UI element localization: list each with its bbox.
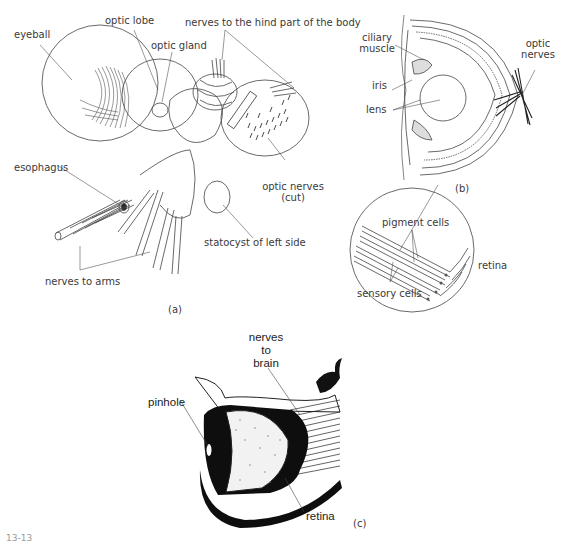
caption-c: (c)	[353, 518, 366, 529]
label-statocyst: statocyst of left side	[204, 237, 306, 248]
label-nerves-to-arms: nerves to arms	[45, 276, 120, 287]
label-ciliary-line2: muscle	[356, 43, 398, 54]
label-nerves-to-brain: nerves to brain	[246, 331, 286, 370]
label-lens: lens	[366, 104, 386, 115]
caption-b: (b)	[455, 183, 469, 194]
label-optic-nerves-cut-line1: optic nerves	[262, 181, 324, 192]
label-iris: iris	[372, 80, 387, 91]
label-pinhole: pinhole	[148, 396, 185, 409]
label-optic-gland: optic gland	[151, 40, 207, 51]
label-retina-c: retina	[306, 510, 335, 523]
label-nerves-line3: brain	[246, 357, 286, 370]
label-optic-nerves-b-line1: optic	[518, 38, 558, 49]
label-optic-lobe: optic lobe	[105, 15, 154, 26]
label-optic-nerves-cut-line2: (cut)	[262, 192, 324, 203]
label-ciliary-muscle: ciliary muscle	[356, 32, 398, 54]
label-ciliary-line1: ciliary	[356, 32, 398, 43]
figure-number: 13-13	[6, 533, 32, 543]
label-sensory-cells: sensory cells	[357, 288, 422, 299]
label-optic-nerves-b: optic nerves	[518, 38, 558, 60]
label-optic-nerves-b-line2: nerves	[518, 49, 558, 60]
label-eyeball: eyeball	[14, 29, 50, 40]
panel-c-pinhole-eye	[180, 358, 342, 528]
label-esophagus: esophagus	[14, 162, 68, 173]
label-nerves-hind: nerves to the hind part of the body	[185, 17, 361, 28]
label-optic-nerves-cut: optic nerves (cut)	[262, 181, 324, 203]
label-pigment-cells: pigment cells	[382, 217, 449, 228]
label-retina-b: retina	[478, 260, 507, 271]
panel-b-eye-section	[350, 15, 535, 312]
label-nerves-line1: nerves	[246, 331, 286, 344]
label-nerves-line2: to	[246, 344, 286, 357]
caption-a: (a)	[168, 304, 182, 315]
